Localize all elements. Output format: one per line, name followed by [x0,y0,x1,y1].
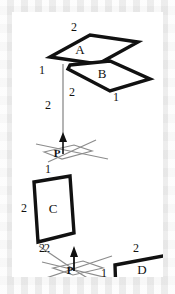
plane-p-lower-normal-arrow-head [70,246,78,257]
region-b-label: B [98,66,107,81]
figure-root: A 2 B 1 2 1 2 P [0,0,175,294]
upper-drop-line-group: 2 [45,64,63,136]
region-d-label: D [137,262,146,277]
region-a-outline [50,35,138,64]
region-a-group: A 2 [50,20,138,64]
region-d-dim-left: 1 [101,266,107,277]
region-b-dim-left: 1 [39,63,45,77]
region-b-dim-right: 1 [113,90,119,104]
region-c-dim-left: 2 [21,201,27,215]
figure-canvas: A 2 B 1 2 1 2 P [12,12,163,277]
region-b-group: B 1 2 1 [39,61,150,104]
plane-p-upper-group: P [36,132,108,162]
region-d-group: D 2 1 [101,241,163,277]
plane-p-lower-dim-upper-left: 2 [39,241,45,255]
region-c-group: C 1 2 2 [21,162,74,255]
region-a-label: A [75,42,85,57]
region-a-dim-top: 2 [71,20,77,34]
plane-p-upper-normal-arrow-head [59,132,67,142]
plane-p-upper-label: P [54,147,61,159]
region-b-dim-bottom: 2 [69,85,75,99]
region-d-dim-top: 2 [133,241,139,255]
plane-p-lower-label: P [67,264,74,276]
region-c-dim-top: 1 [45,162,51,176]
region-b-outline [68,61,150,91]
geometry-figure-svg: A 2 B 1 2 1 2 P [12,12,163,277]
region-c-label: C [49,201,58,216]
drop-line-dim: 2 [45,98,51,112]
